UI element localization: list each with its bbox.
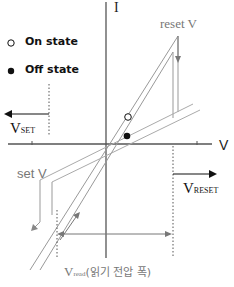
on-state-marker — [125, 114, 132, 121]
set-outer-curve — [34, 180, 40, 228]
v-reset-label: VRESET — [183, 180, 218, 197]
y-axis-label: I — [114, 0, 119, 16]
off-state-lower-curve — [52, 110, 200, 182]
v-read-label: Vread(읽기 전압 폭) — [64, 263, 151, 280]
set-v-label: set V — [17, 166, 47, 181]
reset-v-label: reset V — [160, 16, 197, 32]
v-set-arrow-icon — [4, 110, 12, 118]
legend-filled-circle-icon — [8, 68, 14, 74]
v-set-label: VSET — [10, 120, 35, 137]
legend-off-state: Off state — [25, 63, 79, 76]
legend-open-circle-icon — [8, 40, 14, 46]
off-state-marker — [124, 133, 131, 140]
x-axis-label: V — [219, 137, 228, 153]
off-state-upper-curve — [40, 104, 193, 180]
v-reset-arrow-icon — [209, 170, 217, 178]
legend-on-state: On state — [25, 35, 78, 48]
